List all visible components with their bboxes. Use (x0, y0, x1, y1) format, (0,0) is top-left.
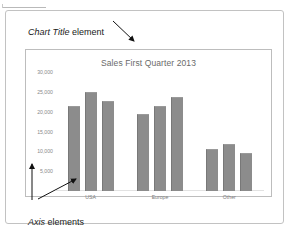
category-axis-tick-label: USA (56, 194, 125, 200)
page-frame: Chart Title element Axis elements Sales … (5, 10, 284, 224)
bar-groups: USAEuropeOther (56, 72, 264, 191)
bar (154, 106, 166, 191)
chart-plot-frame: Sales First Quarter 2013 30,00025,00020,… (25, 49, 272, 197)
category-axis-tick-label: Other (195, 194, 264, 200)
bar (206, 149, 218, 191)
axis-annotation-emphasis: Axis (28, 217, 45, 227)
value-axis-tick-label: 15,000 (37, 129, 53, 135)
bar-group: Europe (125, 72, 194, 191)
value-axis-tick-label: 10,000 (37, 148, 53, 154)
bar (85, 92, 97, 191)
axis-annotation: Axis elements (28, 217, 84, 227)
chart-title: Sales First Quarter 2013 (26, 58, 271, 68)
category-axis-tick-label: Europe (125, 194, 194, 200)
bar (171, 97, 183, 191)
chart-title-annotation-rest: element (69, 27, 104, 37)
bar (68, 106, 80, 191)
bar (137, 114, 149, 191)
axis-annotation-rest: elements (45, 217, 84, 227)
value-axis-tick-label: 30,000 (37, 69, 53, 75)
chart-plot-area: 30,00025,00020,00015,00010,0005,000 USAE… (56, 72, 264, 191)
chart-title-annotation: Chart Title element (28, 27, 104, 37)
top-edge-artifact (2, 7, 46, 8)
bar (240, 153, 252, 191)
bar-group: USA (56, 72, 125, 191)
screenshot-root: Chart Title element Axis elements Sales … (0, 0, 291, 231)
value-axis-tick-label: 20,000 (37, 109, 53, 115)
value-axis-tick-label: 25,000 (37, 89, 53, 95)
bar (223, 144, 235, 191)
value-axis-tick-label: 5,000 (40, 168, 53, 174)
chart-title-annotation-emphasis: Chart Title (28, 27, 69, 37)
bar (102, 101, 114, 191)
bar-group: Other (195, 72, 264, 191)
